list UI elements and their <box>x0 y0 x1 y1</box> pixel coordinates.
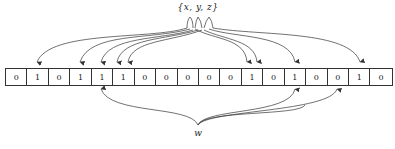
bit-array-diagram: {x, y, z} 0 1 0 1 1 1 0 0 0 0 0 1 0 1 0 … <box>0 0 395 149</box>
bit-cell-7: 0 <box>156 69 177 85</box>
arrow-to-cell-11b <box>204 30 257 62</box>
bottom-arrows <box>101 89 337 125</box>
bit-cell-8: 0 <box>178 69 199 85</box>
bit-cell-13: 1 <box>285 69 306 85</box>
brace-w-extra <box>198 105 305 125</box>
bit-cell-2: 0 <box>49 69 70 85</box>
bit-array: 0 1 0 1 1 1 0 0 0 0 0 1 0 1 0 0 1 0 <box>5 68 393 86</box>
brace-x <box>187 17 193 28</box>
arrow-w-to-cell-4 <box>101 89 198 125</box>
bit-cell-5: 1 <box>113 69 134 85</box>
arrow-to-cell-16 <box>213 28 360 62</box>
element-w-label: w <box>188 128 208 138</box>
arrow-to-cell-1 <box>37 28 187 62</box>
bit-cell-14: 0 <box>306 69 327 85</box>
bit-cell-4: 1 <box>92 69 113 85</box>
arrow-w-to-cell-13 <box>198 89 295 125</box>
bit-cell-12: 0 <box>263 69 284 85</box>
bit-cell-11: 1 <box>242 69 263 85</box>
bit-cell-17: 0 <box>370 69 391 85</box>
bit-cell-6: 0 <box>135 69 156 85</box>
bit-cell-9: 0 <box>199 69 220 85</box>
bit-cell-3: 1 <box>70 69 91 85</box>
arrow-to-cell-11a <box>195 29 247 62</box>
top-arrows <box>37 17 360 62</box>
bit-cell-1: 1 <box>27 69 48 85</box>
set-xyz-label: {x, y, z} <box>168 2 228 12</box>
bit-cell-10: 0 <box>220 69 241 85</box>
bit-cell-15: 0 <box>328 69 349 85</box>
arrow-w-to-cell-15 <box>198 89 337 125</box>
brace-y <box>195 17 202 28</box>
bit-cell-16: 1 <box>349 69 370 85</box>
bit-cell-0: 0 <box>6 69 27 85</box>
brace-z <box>204 17 213 28</box>
